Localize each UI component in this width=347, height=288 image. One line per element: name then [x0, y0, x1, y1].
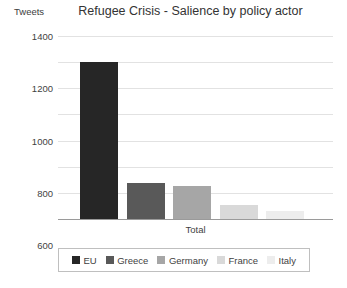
- legend-item-italy[interactable]: Italy: [267, 255, 296, 266]
- legend-item-greece[interactable]: Greece: [106, 255, 149, 266]
- legend-label: Greece: [117, 255, 148, 266]
- legend-swatch-icon: [72, 256, 80, 264]
- bar-greece: [127, 183, 165, 219]
- axis-baseline: [58, 219, 333, 220]
- legend-swatch-icon: [106, 256, 114, 264]
- gridline: 1400: [58, 36, 333, 37]
- y-axis-tick-label: 800: [37, 187, 53, 198]
- bar-france: [220, 205, 258, 219]
- legend-item-eu[interactable]: EU: [72, 255, 97, 266]
- bar-chart: Tweets Refugee Crisis - Salience by poli…: [0, 0, 347, 288]
- chart-title: Refugee Crisis - Salience by policy acto…: [0, 4, 347, 18]
- y-axis-tick-label: 600: [37, 240, 53, 251]
- legend-swatch-icon: [157, 256, 165, 264]
- y-axis-tick-label: 1200: [32, 83, 53, 94]
- legend-label: Italy: [279, 255, 296, 266]
- x-axis-category-label: Total: [58, 224, 333, 235]
- chart-legend: EUGreeceGermanyFranceItaly: [58, 248, 310, 272]
- plot-area: 1400120010008006004002000: [58, 36, 333, 219]
- bar-germany: [173, 186, 211, 219]
- bar-italy: [266, 211, 304, 219]
- legend-swatch-icon: [267, 256, 275, 264]
- y-axis-tick-label: 1000: [32, 135, 53, 146]
- legend-label: Germany: [169, 255, 208, 266]
- legend-item-germany[interactable]: Germany: [157, 255, 208, 266]
- legend-label: EU: [84, 255, 97, 266]
- legend-item-france[interactable]: France: [217, 255, 258, 266]
- bar-eu: [80, 62, 118, 219]
- legend-label: France: [228, 255, 258, 266]
- legend-swatch-icon: [217, 256, 225, 264]
- y-axis-tick-label: 1400: [32, 31, 53, 42]
